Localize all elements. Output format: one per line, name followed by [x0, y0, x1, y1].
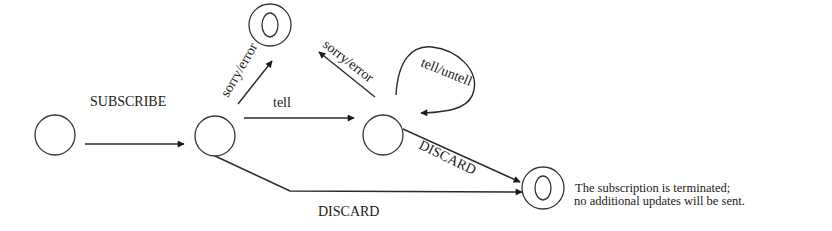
label-tell-untell: tell/untell — [419, 55, 474, 89]
final-state-error — [249, 4, 291, 46]
initial-state — [35, 115, 75, 155]
note-line-2: no additional updates will be sent. — [574, 194, 745, 208]
state-diagram: SUBSCRIBE sorry/error tell sorry/error t… — [0, 0, 832, 231]
state-active — [363, 115, 403, 155]
label-s1-discard: DISCARD — [318, 204, 379, 219]
note-line-1: The subscription is terminated; — [575, 181, 730, 195]
label-tell: tell — [273, 95, 291, 110]
transition-s2-discard: DISCARD — [403, 129, 520, 182]
state-subscribed — [195, 116, 235, 156]
label-s2-discard: DISCARD — [417, 137, 479, 177]
transition-tell-untell: tell/untell — [396, 47, 475, 113]
transition-s2-sorry-error: sorry/error — [319, 37, 377, 97]
transition-subscribe: SUBSCRIBE — [85, 94, 184, 144]
final-state-terminated — [522, 167, 564, 209]
transition-tell: tell — [244, 95, 354, 118]
transition-s1-sorry-error: sorry/error — [218, 40, 272, 104]
label-subscribe: SUBSCRIBE — [90, 94, 166, 109]
label-s2-sorry-error: sorry/error — [320, 37, 377, 86]
label-s1-sorry-error: sorry/error — [218, 40, 261, 100]
